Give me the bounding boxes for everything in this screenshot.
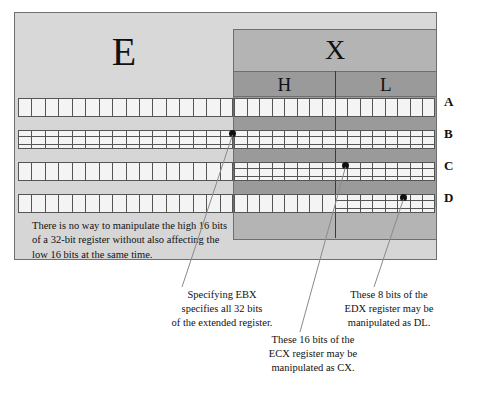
- table-row: [15, 130, 438, 149]
- table-row: [15, 98, 438, 117]
- ebx-callout-line-3: of the extended register.: [152, 316, 292, 330]
- register-suffix-label: X: [234, 30, 436, 70]
- row-label-b: B: [444, 124, 464, 143]
- row-c-right-ticks: [234, 163, 435, 180]
- row-label-c: C: [444, 156, 464, 175]
- edx-callout-line-3: manipulated as DL.: [322, 316, 456, 330]
- low-half-label: L: [336, 72, 437, 96]
- row-b-left-segment: [18, 130, 233, 149]
- row-a-right-segment: [234, 98, 435, 117]
- row-a-left-ticks: [18, 99, 233, 116]
- ebx-callout-line-2: specifies all 32 bits: [152, 302, 292, 316]
- table-row: [15, 162, 438, 181]
- row-c-left-segment: [18, 162, 233, 181]
- row-b-left-ticks: [18, 131, 233, 148]
- row-a-left-segment: [18, 98, 233, 117]
- edx-callout-line-2: EDX register may be: [322, 302, 456, 316]
- row-d-left-segment: [18, 194, 233, 213]
- row-c-right-segment: [234, 162, 435, 181]
- edx-callout: These 8 bits of the EDX register may be …: [322, 288, 456, 330]
- row-label-d: D: [444, 188, 464, 207]
- table-row: [15, 194, 438, 213]
- ebx-callout-line-1: Specifying EBX: [152, 288, 292, 302]
- ecx-callout-line-3: manipulated as CX.: [246, 361, 380, 375]
- register-prefix-label: E: [15, 13, 233, 91]
- row-b-right-ticks: [234, 131, 435, 148]
- edx-marker-dot: [400, 194, 407, 201]
- ecx-callout-line-2: ECX register may be: [246, 347, 380, 361]
- edx-callout-line-1: These 8 bits of the: [322, 288, 456, 302]
- row-b-right-segment: [234, 130, 435, 149]
- ebx-callout: Specifying EBX specifies all 32 bits of …: [152, 288, 292, 330]
- row-c-left-ticks: [18, 163, 233, 180]
- register-diagram-panel: E X H L: [14, 12, 437, 260]
- row-label-a: A: [444, 92, 464, 111]
- row-d-left-ticks: [18, 195, 233, 212]
- ecx-callout: These 16 bits of the ECX register may be…: [246, 333, 380, 375]
- high-low-note: There is no way to manipulate the high 1…: [32, 219, 236, 262]
- ecx-callout-line-1: These 16 bits of the: [246, 333, 380, 347]
- ebx-marker-dot: [229, 130, 236, 137]
- ecx-marker-dot: [342, 162, 349, 169]
- high-half-label: H: [234, 72, 336, 96]
- row-a-right-ticks: [234, 99, 435, 116]
